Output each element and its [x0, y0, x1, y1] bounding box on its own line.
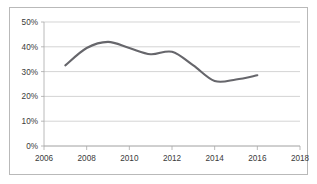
x-axis-tick-label: 2012: [163, 154, 182, 163]
x-axis-tick-label: 2006: [35, 154, 54, 163]
y-axis-tick-label: 0%: [26, 142, 38, 151]
x-axis-tick-label: 2010: [120, 154, 139, 163]
x-axis-tick-label: 2016: [248, 154, 267, 163]
data-series-line: [65, 42, 257, 82]
chart-frame: 50%40%30%20%10%0%20062008201020122014201…: [9, 7, 308, 175]
y-axis-tick-label: 40%: [22, 43, 38, 52]
line-chart: 50%40%30%20%10%0%20062008201020122014201…: [10, 8, 309, 176]
chart-plot-area: 50%40%30%20%10%0%20062008201020122014201…: [10, 8, 309, 176]
y-axis-tick-label: 20%: [22, 92, 38, 101]
x-axis-tick-label: 2018: [291, 154, 309, 163]
y-axis-tick-label: 30%: [22, 68, 38, 77]
y-axis-tick-label: 10%: [22, 117, 38, 126]
x-axis-tick-label: 2008: [78, 154, 97, 163]
x-axis-tick-label: 2014: [206, 154, 225, 163]
y-axis-tick-label: 50%: [22, 18, 38, 27]
